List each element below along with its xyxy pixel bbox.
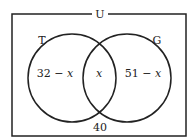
venn-diagram: U T G 32 − x x 51 − x 40 (0, 0, 195, 139)
region-intersection: x (96, 67, 103, 80)
region-outside: 40 (93, 121, 107, 134)
region-g-only: 51 − x (125, 67, 162, 80)
universe-label: U (95, 8, 104, 21)
set-t-label: T (38, 34, 46, 47)
region-t-only: 32 − x (37, 67, 74, 80)
set-g-label: G (153, 34, 162, 47)
